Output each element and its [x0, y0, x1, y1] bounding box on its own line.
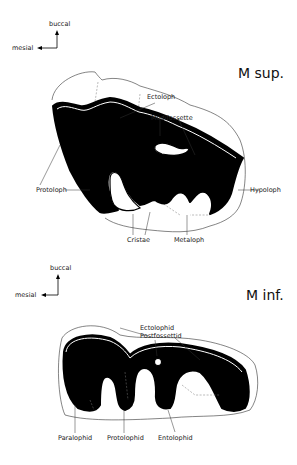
label-metaloph: Metaloph — [174, 236, 204, 244]
lower-buccal-label: buccal — [50, 264, 71, 272]
tooth-diagram: buccal mesial M sup. Ectoloph Medifosset… — [0, 0, 297, 465]
label-paralophid: Paralophid — [58, 434, 92, 442]
upper-buccal-label: buccal — [49, 20, 70, 28]
label-hypoloph: Hypoloph — [250, 186, 281, 194]
label-postfossettid: Postfossettid — [140, 332, 182, 340]
label-protoloph: Protoloph — [36, 186, 67, 194]
lower-orientation-arrows: buccal mesial — [15, 264, 71, 299]
upper-title: M sup. — [238, 65, 284, 81]
label-entolophid: Entolophid — [158, 434, 193, 442]
lower-title: M inf. — [246, 287, 284, 303]
label-cristae: Cristae — [127, 236, 150, 244]
label-medifossette: Medifossette — [151, 114, 193, 122]
label-ectolophid: Ectolophid — [140, 324, 174, 332]
upper-molar-figure: buccal mesial M sup. Ectoloph Medifosset… — [12, 20, 284, 244]
upper-mesial-label: mesial — [12, 44, 34, 52]
lower-molar-figure: buccal mesial M inf. Ectolophid Postfoss… — [15, 264, 284, 442]
label-ectoloph: Ectoloph — [147, 93, 175, 101]
upper-orientation-arrows: buccal mesial — [12, 20, 70, 52]
lower-mesial-label: mesial — [15, 291, 37, 299]
label-protolophid: Protolophid — [107, 434, 144, 442]
